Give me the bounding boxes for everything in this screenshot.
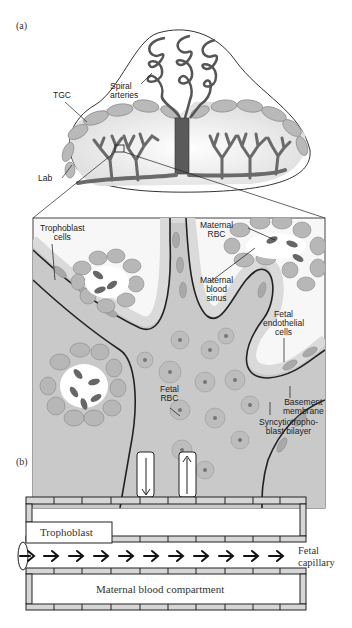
label-line: sinus (200, 294, 233, 303)
label-line: cells (263, 328, 304, 337)
label-line: arteries (110, 91, 138, 100)
label-maternal-blood-compartment: Maternal blood compartment (96, 583, 224, 595)
panel-b-label: (b) (16, 456, 28, 467)
label-spiral-arteries: Spiral arteries (110, 82, 138, 100)
label-trophoblast-cells: Trophoblast cells (40, 224, 85, 242)
label-syncytiotrophoblast-bilayer: Syncytiotropho- blast bilayer (259, 418, 318, 436)
label-line: RBC (200, 230, 233, 239)
central-canal (175, 118, 189, 174)
label-fetal-capillary: Fetal capillary (298, 545, 335, 569)
label-line: Fetal (298, 545, 335, 557)
flow-arrows (20, 551, 283, 561)
label-fetal-endothelial-cells: Fetal endothelial cells (263, 310, 304, 337)
label-line: cells (40, 233, 85, 242)
label-tgc: TGC (53, 91, 71, 100)
label-line: RBC (160, 394, 179, 403)
label-lab: Lab (38, 174, 52, 183)
label-trophoblast: Trophoblast (40, 526, 93, 538)
label-maternal-rbc: Maternal RBC (200, 221, 233, 239)
label-line: capillary (298, 557, 335, 569)
label-line: blast bilayer (259, 427, 318, 436)
label-basement-membrane: Basement membrane (283, 398, 324, 416)
label-maternal-blood-sinus: Maternal blood sinus (200, 276, 233, 303)
label-line: membrane (283, 407, 324, 416)
label-fetal-rbc: Fetal RBC (160, 385, 179, 403)
